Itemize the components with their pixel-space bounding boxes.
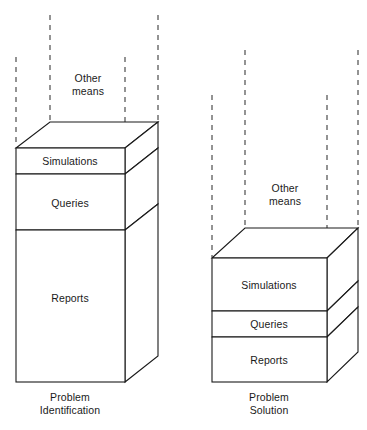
dashed-extension-lines-right: [212, 50, 358, 257]
front-face-reports-left: [16, 230, 125, 382]
side-face-reports-left: [125, 204, 158, 382]
segment-label-reports-left: Reports: [51, 292, 88, 305]
segment-label-queries-left: Queries: [51, 197, 88, 210]
caption-problem-identification: Problem Identification: [40, 391, 100, 417]
block-problem-solution: [212, 50, 358, 382]
segment-label-reports-right: Reports: [250, 354, 287, 367]
other-means-label-right: Other means: [269, 182, 301, 208]
segment-label-queries-right: Queries: [250, 318, 287, 331]
figure-root: Other means Simulations Queries Reports …: [0, 0, 367, 430]
segment-label-simulations-right: Simulations: [241, 279, 296, 292]
diagram-canvas: [0, 0, 367, 430]
segment-label-simulations-left: Simulations: [42, 155, 97, 168]
caption-problem-solution: Problem Solution: [249, 391, 289, 417]
other-means-label-left: Other means: [72, 72, 104, 98]
